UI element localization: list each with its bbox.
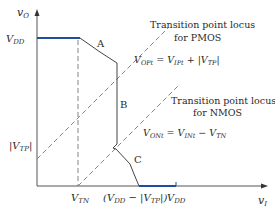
nmos-locus-equation: VONt = VINt − VTN (143, 127, 226, 140)
pmos-locus-annotation: Transition point locus for PMOS VOPt = V… (134, 19, 255, 67)
vtc-diagram: vO vI VDD |VTP| VTN (VDD − |VTP|) VDD A … (0, 0, 275, 211)
y-tick-vtp: |VTP| (9, 140, 32, 153)
pmos-locus-equation: VOPt = VIPt + |VTP| (134, 54, 220, 67)
region-label-c: C (134, 154, 142, 165)
y-tick-vdd: VDD (6, 33, 25, 46)
y-axis-label: vO (17, 6, 29, 20)
pmos-locus-title: Transition point locus (150, 19, 255, 30)
pmos-locus-subtitle: for PMOS (174, 32, 221, 43)
region-label-b: B (120, 99, 127, 110)
nmos-locus-title: Transition point locus (171, 95, 275, 106)
x-axis-arrow-icon (261, 184, 268, 189)
nmos-locus-annotation: Transition point locus for NMOS VONt = V… (143, 95, 275, 140)
nmos-locus-subtitle: for NMOS (193, 107, 242, 118)
dashed-guides (37, 28, 180, 186)
x-tick-vdd-minus-vtp: (VDD − |VTP|) (103, 192, 167, 205)
x-tick-vtn: VTN (71, 192, 90, 205)
x-axis-label: vI (258, 194, 267, 208)
region-label-a: A (96, 38, 105, 49)
x-tick-vdd: VDD (167, 192, 186, 205)
curve-segment-a-b-c (80, 38, 139, 186)
y-axis-arrow-icon (35, 9, 40, 16)
